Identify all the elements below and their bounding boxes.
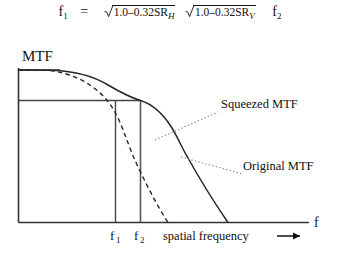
radical-h-subscript: H [168, 11, 175, 21]
tick-label-f1: f 1 [110, 228, 121, 245]
original-mtf-curve [19, 70, 229, 223]
tick-label-f2: f 2 [134, 228, 145, 245]
radical-h-body: 1.0–0.32SR [114, 6, 168, 18]
tick-f1-symbol: f [110, 228, 115, 243]
radical-v-body: 1.0–0.32SR [195, 6, 249, 18]
mtf-chart: MTF Squeezed MTF Original MTF f f 1 f 2 … [0, 36, 340, 271]
squeezed-mtf-annotation: Squeezed MTF [221, 97, 298, 111]
formula-equals-sign: = [80, 4, 88, 19]
x-axis-caption: spatial frequency [163, 229, 249, 243]
original-mtf-annotation: Original MTF [243, 159, 314, 173]
squeezed-mtf-curve [19, 70, 169, 223]
formula-radical-horizontal: 1.0–0.32SRH [104, 4, 176, 21]
x-axis-symbol-label: f [314, 215, 319, 230]
tick-f1-subscript: 1 [116, 235, 121, 245]
formula-rhs-subscript: 2 [277, 11, 282, 21]
formula-radical-vertical: 1.0–0.32SRV [185, 4, 256, 21]
radical-vinculum [112, 5, 176, 6]
original-mtf-leader-line [181, 157, 243, 174]
radical-v-subscript: V [249, 11, 255, 21]
squeezed-mtf-leader-line [155, 112, 218, 140]
mtf-chart-svg: MTF Squeezed MTF Original MTF f f 1 f 2 … [0, 36, 340, 271]
figure-container: f1 = 1.0–0.32SRH 1.0–0.32SRV f2 [0, 0, 340, 271]
tick-f2-symbol: f [134, 228, 139, 243]
radical-sign-icon-2 [185, 5, 194, 17]
spatial-frequency-arrow-icon [277, 233, 300, 240]
radical-sign-icon [104, 5, 113, 17]
y-axis-label: MTF [22, 48, 53, 64]
tick-f2-subscript: 2 [140, 235, 145, 245]
formula-lhs-subscript: 1 [63, 11, 68, 21]
radical-vinculum-2 [193, 5, 256, 6]
formula-expression: f1 = 1.0–0.32SRH 1.0–0.32SRV f2 [0, 4, 340, 21]
